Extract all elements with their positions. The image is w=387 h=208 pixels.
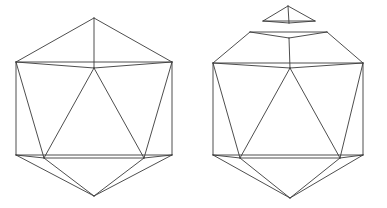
geometry-diagram: Icosahedron and icosahedron with detache… [0,0,387,208]
figure-container: Icosahedron and icosahedron with detache… [0,0,387,208]
